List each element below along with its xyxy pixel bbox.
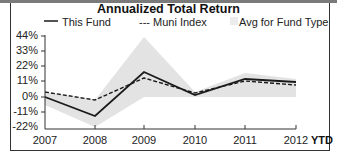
x-tick-label: 2011 (230, 134, 260, 146)
ytd-label: YTD (311, 134, 333, 146)
y-tick-label: -22% (8, 120, 38, 132)
x-tick-label: 2007 (30, 134, 60, 146)
x-tick-label: 2010 (180, 134, 210, 146)
x-tick-label: 2008 (80, 134, 110, 146)
y-tick-label: 44% (8, 29, 38, 41)
y-tick-label: 22% (8, 59, 38, 71)
x-axis-ticks (95, 125, 296, 129)
y-tick-label: 11% (8, 74, 38, 86)
x-tick-label: 2012 (281, 134, 311, 146)
x-tick-label: 2009 (129, 134, 159, 146)
y-tick-label: 33% (8, 44, 38, 56)
y-axis-ticks (41, 36, 45, 112)
y-tick-label: -11% (8, 105, 38, 117)
y-tick-label: 0% (8, 90, 38, 102)
